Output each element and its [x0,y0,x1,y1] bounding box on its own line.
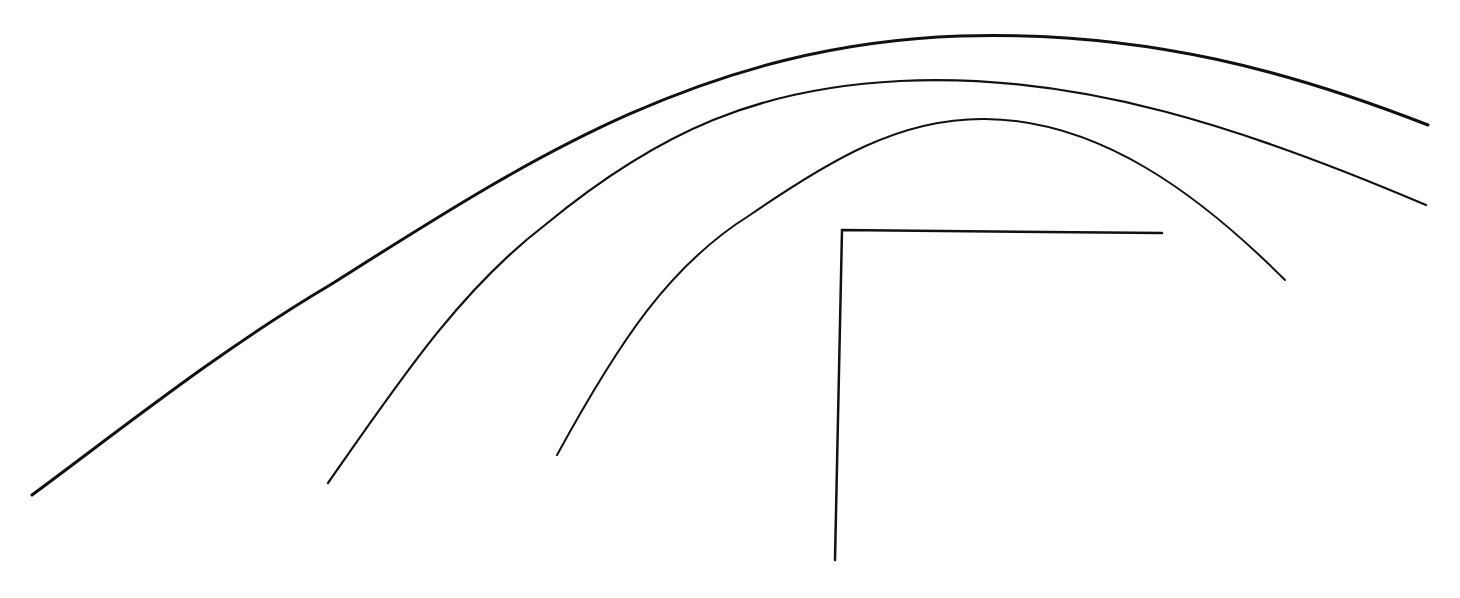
line-drawing-canvas [0,0,1460,598]
inner-arc [557,119,1285,455]
corner-bracket [835,230,1162,560]
outer-arc [32,35,1428,495]
